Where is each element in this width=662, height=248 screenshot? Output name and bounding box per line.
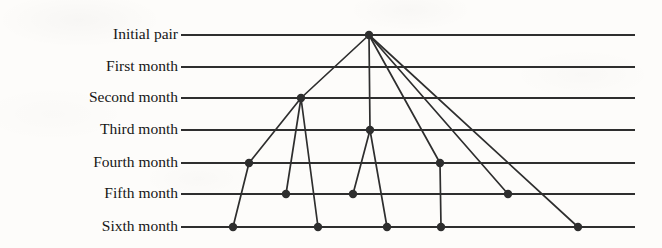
row-label-initial: Initial pair bbox=[113, 26, 178, 42]
row-labels: Initial pairFirst monthSecond monthThird… bbox=[0, 0, 662, 248]
row-label-month6: Sixth month bbox=[102, 218, 178, 234]
row-label-month5: Fifth month bbox=[104, 185, 178, 201]
row-label-month3: Third month bbox=[100, 121, 178, 137]
row-label-month2: Second month bbox=[89, 89, 178, 105]
figure-canvas: Initial pairFirst monthSecond monthThird… bbox=[0, 0, 662, 248]
row-label-month4: Fourth month bbox=[93, 154, 178, 170]
row-label-month1: First month bbox=[106, 58, 178, 74]
